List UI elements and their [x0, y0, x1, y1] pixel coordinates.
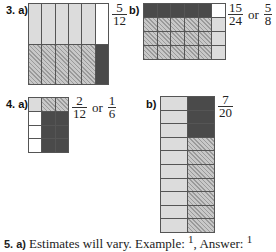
- grid-cell-hatch: [158, 46, 171, 59]
- grid-cell-hatch: [158, 32, 171, 45]
- grid-cell-dark: [188, 97, 214, 110]
- grid-cell-light: [29, 98, 41, 111]
- grid-cell-hatch: [29, 45, 41, 85]
- question-3-label: 3. a): [6, 4, 28, 16]
- grid-cell-light: [82, 4, 94, 44]
- grid-cell-white: [29, 112, 41, 125]
- grid-cell-dark: [171, 4, 184, 17]
- grid-cell-light: [161, 138, 187, 151]
- grid-cell-hatch: [144, 46, 157, 59]
- grid-cell-dark: [56, 126, 68, 139]
- grid-3a: [28, 3, 109, 85]
- grid-cell-light: [212, 18, 225, 31]
- answer-3a: 512: [112, 2, 127, 27]
- grid-cell-hatch: [185, 46, 198, 59]
- grid-cell-dark: [144, 4, 157, 17]
- grid-cell-light: [56, 4, 68, 44]
- grid-cell-hatch: [144, 32, 157, 45]
- grid-cell-hatch: [82, 45, 94, 85]
- grid-cell-white: [29, 126, 41, 139]
- grid-cell-light: [161, 219, 187, 232]
- grid-cell-hatch: [56, 45, 68, 85]
- grid-cell-white: [96, 4, 108, 44]
- grid-cell-light: [212, 32, 225, 45]
- grid-cell-hatch: [69, 45, 81, 85]
- grid-cell-hatch: [171, 18, 184, 31]
- grid-3b: [143, 3, 226, 60]
- grid-cell-light: [161, 111, 187, 124]
- grid-cell-hatch: [199, 18, 212, 31]
- grid-cell-dark: [42, 112, 54, 125]
- grid-cell-hatch: [188, 165, 214, 178]
- grid-4b: [160, 96, 215, 233]
- grid-cell-light: [29, 4, 41, 44]
- grid-cell-hatch: [188, 219, 214, 232]
- grid-cell-hatch: [42, 45, 54, 85]
- grid-cell-dark: [42, 126, 54, 139]
- grid-cell-hatch: [185, 32, 198, 45]
- grid-cell-light: [161, 124, 187, 137]
- question-4b-label: b): [146, 98, 156, 110]
- grid-cell-hatch: [185, 18, 198, 31]
- question-4-label: 4. a): [6, 98, 28, 110]
- grid-cell-hatch: [56, 98, 68, 111]
- grid-cell-hatch: [188, 179, 214, 192]
- grid-cell-dark: [188, 111, 214, 124]
- grid-cell-hatch: [171, 32, 184, 45]
- grid-cell-white: [212, 4, 225, 17]
- grid-cell-light: [161, 97, 187, 110]
- question-5-text: 5. a)Estimates will vary. Example: 1, An…: [4, 236, 252, 252]
- grid-cell-dark: [185, 4, 198, 17]
- grid-cell-light: [161, 206, 187, 219]
- grid-cell-dark: [188, 124, 214, 137]
- grid-cell-light: [161, 165, 187, 178]
- grid-4a: [28, 97, 69, 153]
- grid-cell-hatch: [188, 206, 214, 219]
- grid-cell-hatch: [171, 46, 184, 59]
- grid-cell-hatch: [199, 46, 212, 59]
- answer-4b: 720: [218, 94, 233, 119]
- grid-cell-hatch: [199, 32, 212, 45]
- grid-cell-light: [42, 4, 54, 44]
- answer-3b: 1524 or 58: [228, 2, 272, 27]
- grid-cell-light: [69, 4, 81, 44]
- grid-cell-white: [29, 139, 41, 152]
- grid-cell-dark: [158, 4, 171, 17]
- grid-cell-light: [161, 179, 187, 192]
- grid-cell-hatch: [188, 151, 214, 164]
- grid-cell-dark: [56, 139, 68, 152]
- grid-cell-hatch: [188, 138, 214, 151]
- answer-4a: 212 or 16: [72, 95, 116, 120]
- grid-cell-dark: [56, 112, 68, 125]
- grid-cell-hatch: [158, 18, 171, 31]
- grid-cell-hatch: [188, 192, 214, 205]
- grid-cell-hatch: [144, 18, 157, 31]
- grid-cell-light: [212, 46, 225, 59]
- grid-cell-dark: [42, 139, 54, 152]
- grid-cell-light: [161, 192, 187, 205]
- grid-cell-light: [161, 151, 187, 164]
- grid-cell-dark: [96, 45, 108, 85]
- question-3b-label: b): [129, 4, 139, 16]
- grid-cell-dark: [199, 4, 212, 17]
- grid-cell-hatch: [42, 98, 54, 111]
